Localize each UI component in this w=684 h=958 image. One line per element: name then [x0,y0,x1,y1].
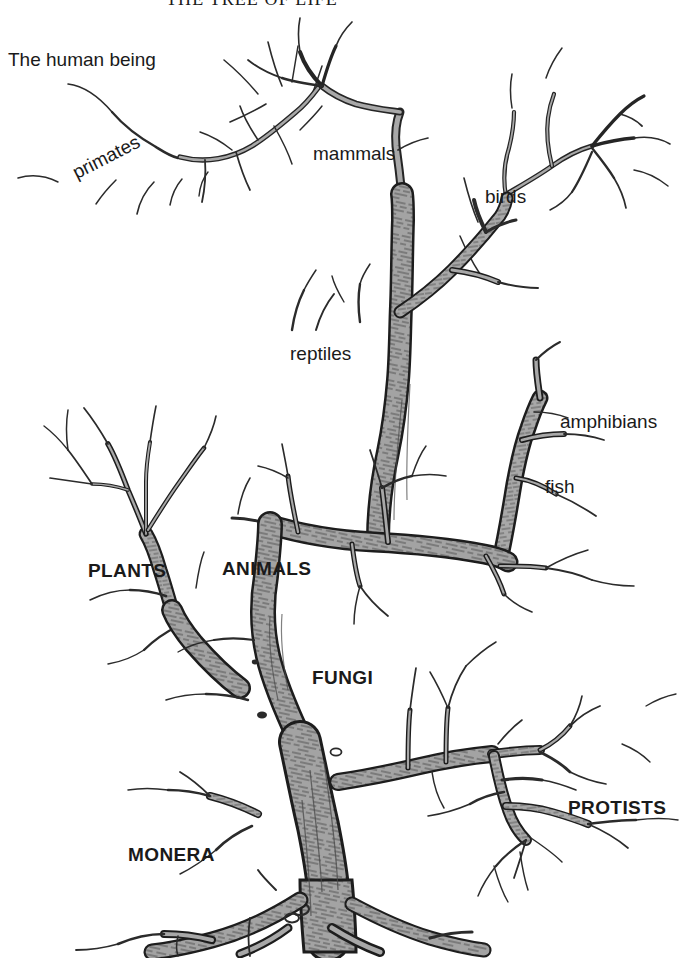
page-title: THE TREE OF LIFE [166,0,338,10]
branch-protists [428,744,678,896]
branch-birds [460,48,670,274]
diagram-label-animals: ANIMALS [222,559,311,578]
branch-reptiles [292,264,370,330]
branch-animals-connector [263,524,300,740]
diagram-label-birds: birds [485,187,526,206]
diagram-label-mammals: mammals [313,144,395,163]
diagram-label-monera: MONERA [128,845,215,864]
tree-of-life-page: THE TREE OF LIFE The human beingprimates… [0,0,684,958]
diagram-label-fungi: FUNGI [312,668,373,687]
document-title-row: THE TREE OF LIFE [0,0,684,10]
diagram-label-protists: PROTISTS [568,798,666,817]
diagram-label-reptiles: reptiles [290,344,351,363]
branch-mammals [248,18,428,196]
diagram-label-human-being: The human being [8,50,156,69]
branch-animals [232,444,634,624]
diagram-label-plants: PLANTS [88,561,166,580]
root-flare [76,870,484,956]
branch-fungi [338,642,606,808]
branch-amphibians-fish [500,342,604,560]
branch-plants [44,406,250,664]
branch-to-birds [400,198,538,312]
diagram-label-amphibians: amphibians [560,412,657,431]
trunk-main [252,660,356,952]
diagram-label-fish: fish [545,477,575,496]
